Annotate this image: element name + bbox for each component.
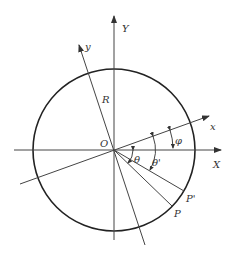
phi-arc (170, 130, 173, 148)
label-Y: Y (122, 23, 130, 34)
label-phi: φ (175, 135, 182, 146)
label-X: X (212, 159, 221, 170)
label-y: y (84, 41, 91, 52)
label-theta-prime: θ' (152, 157, 161, 168)
label-O: O (100, 138, 108, 149)
label-x: x (210, 121, 216, 132)
geometry-diagram: Y y R O x φ X θ θ' P' P (0, 0, 232, 256)
label-P-prime: P' (185, 193, 195, 204)
y-axis-rotated (79, 45, 145, 245)
line-OP-prime (114, 150, 184, 191)
label-P: P (173, 208, 181, 219)
label-R: R (101, 94, 110, 105)
label-theta: θ (134, 154, 140, 165)
